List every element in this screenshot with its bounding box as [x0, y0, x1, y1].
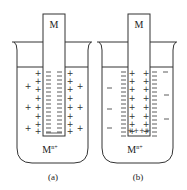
plus-charge: +: [25, 103, 32, 112]
plus-charge: +: [67, 103, 74, 112]
plus-charge: +: [143, 85, 150, 94]
plus-charge: +: [35, 85, 42, 94]
plus-charge: +: [143, 94, 150, 103]
plus-charge: +: [25, 124, 32, 133]
plus-charge: +: [67, 127, 74, 136]
plus-charge: +: [35, 94, 42, 103]
caption-b: (b): [133, 172, 144, 182]
plus-charge: +: [35, 127, 42, 136]
caption-a: (a): [48, 172, 58, 182]
plus-charge: +: [77, 124, 84, 133]
plus-charge: +: [77, 82, 84, 91]
electrode-label-a: M: [50, 19, 59, 30]
plus-charge: +: [129, 103, 136, 112]
solution-label-b: Mn+: [127, 144, 143, 155]
plus-charge: +: [143, 103, 150, 112]
plus-charge: +: [129, 94, 136, 103]
electrode-a: [43, 14, 65, 136]
minus-charge: ++++: [127, 127, 151, 135]
plus-charge: +: [67, 85, 74, 94]
plus-charge: +: [67, 94, 74, 103]
plus-charge: +: [35, 103, 42, 112]
solution-label-a: Mn+: [42, 144, 58, 155]
plus-charge: +: [77, 103, 84, 112]
plus-charge: +: [25, 82, 32, 91]
double-layer-diagram: M M ++++++++++++++++++++++ +++++++++++++…: [0, 0, 187, 190]
plus-charge: +: [129, 85, 136, 94]
electrode-label-b: M: [135, 19, 144, 30]
